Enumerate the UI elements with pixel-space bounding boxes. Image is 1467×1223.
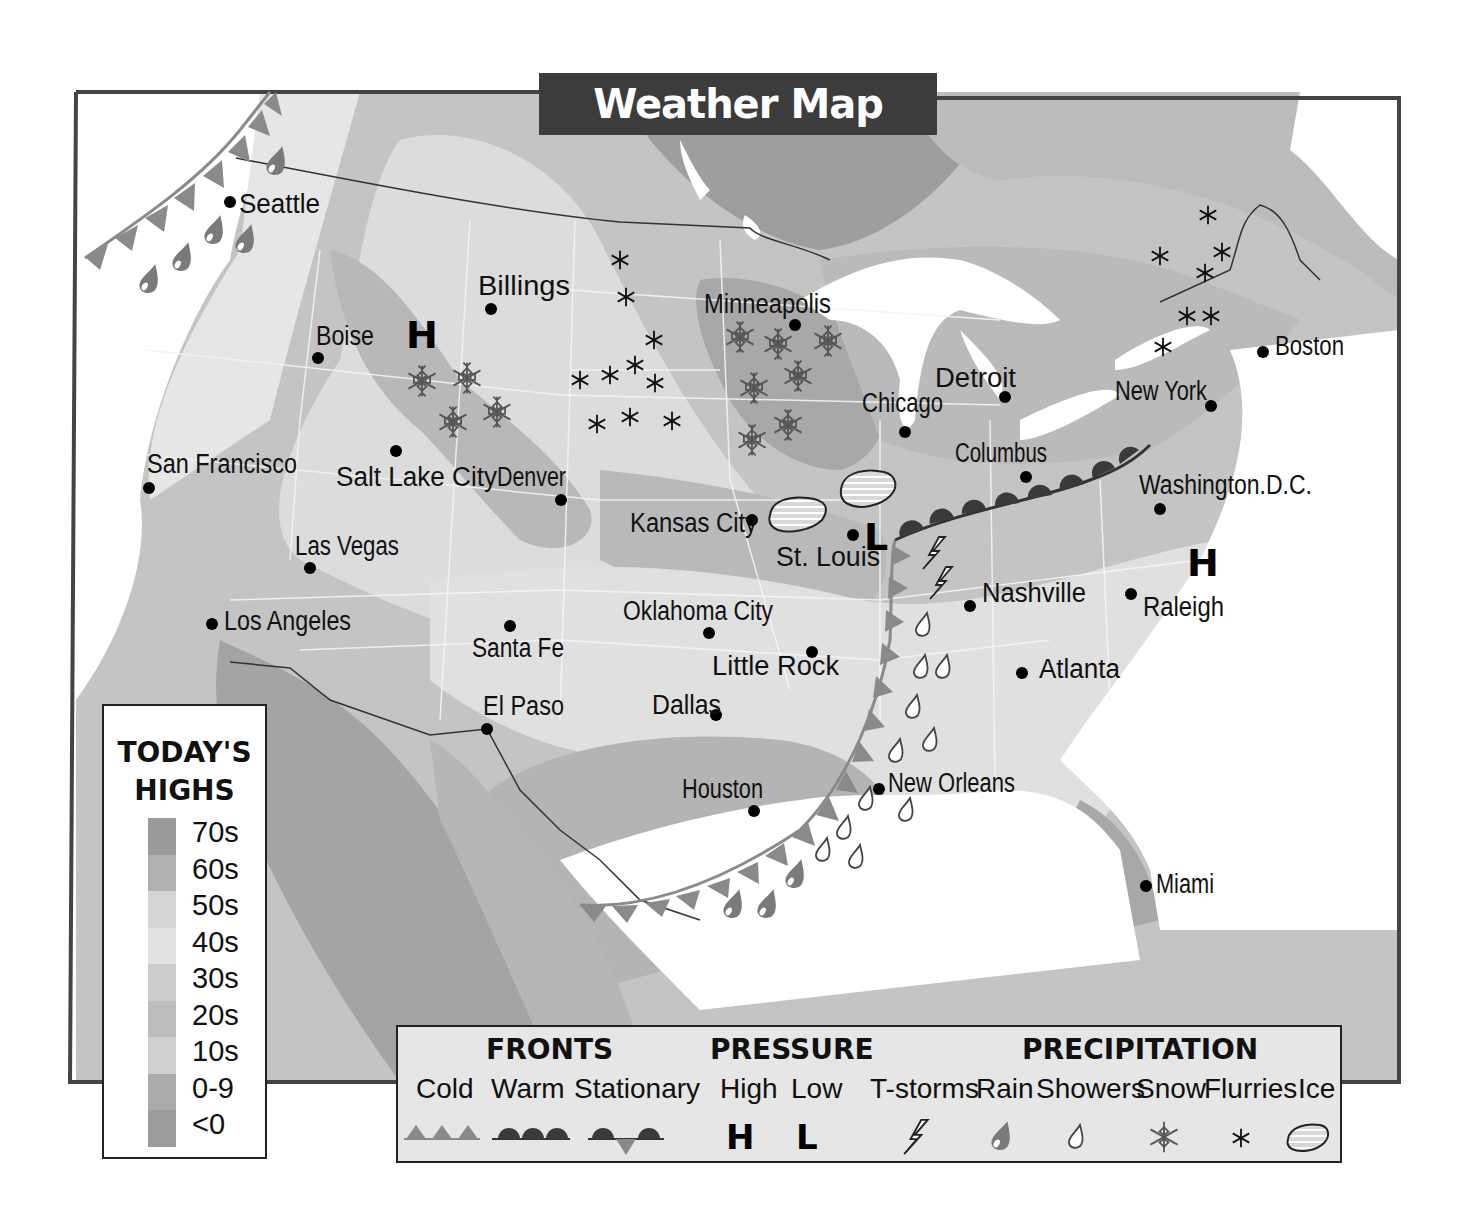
city-dot-icon <box>206 618 218 630</box>
todays-highs-title: TODAY'S HIGHS <box>104 734 265 810</box>
low-pressure-icon: L <box>796 1117 818 1157</box>
city-label: Las Vegas <box>295 531 399 561</box>
city-dot-icon <box>481 723 493 735</box>
city-dot-icon <box>1257 346 1269 358</box>
todays-highs-title-line2: HIGHS <box>104 772 265 810</box>
map-title: Weather Map <box>593 81 883 127</box>
city-label: Seattle <box>239 189 320 219</box>
city-dot-icon <box>312 352 324 364</box>
warm-front-icon <box>490 1119 572 1151</box>
symbols-legend: FRONTS PRESSURE PRECIPITATION Cold Warm … <box>396 1025 1342 1163</box>
city-label: Minneapolis <box>704 289 831 319</box>
city-dallas: Dallas <box>652 690 722 721</box>
todays-highs-title-line1: TODAY'S <box>104 734 265 772</box>
city-label: Atlanta <box>1039 654 1121 684</box>
city-dot-icon <box>504 620 516 632</box>
city-label: Oklahoma City <box>623 596 773 626</box>
legend-ice-label: Ice <box>1298 1073 1335 1105</box>
raindrop-outline-icon <box>1066 1123 1086 1151</box>
temperature-bands <box>76 92 1399 1082</box>
scale-swatch <box>148 1001 176 1038</box>
city-dot-icon <box>1020 471 1032 483</box>
legend-tstorms-label: T-storms <box>870 1073 979 1105</box>
legend-low-label: Low <box>791 1073 842 1105</box>
city-dot-icon <box>847 529 859 541</box>
map-title-banner: Weather Map <box>539 73 937 135</box>
city-label: Chicago <box>862 388 943 418</box>
city-label: Detroit <box>935 363 1016 393</box>
cold-front-icon <box>402 1119 482 1151</box>
city-label: Washington.D.C. <box>1139 470 1312 500</box>
city-dot-icon <box>899 426 911 438</box>
city-label: Miami <box>1156 869 1214 899</box>
scale-label: 10s <box>192 1033 239 1070</box>
scale-label: 60s <box>192 851 239 888</box>
city-los-angeles: Los Angeles <box>206 606 351 636</box>
city-label: Boston <box>1275 331 1344 361</box>
scale-swatch <box>148 928 176 965</box>
scale-label: 20s <box>192 997 239 1034</box>
scale-label: 40s <box>192 924 239 961</box>
stationary-front-icon <box>586 1119 666 1161</box>
city-nashville: Nashville <box>964 578 1086 612</box>
city-label: San Francisco <box>147 449 297 479</box>
scale-label: <0 <box>192 1106 239 1143</box>
city-new-orleans: New Orleans <box>873 768 1015 798</box>
city-label: Salt Lake City <box>336 462 497 492</box>
legend-pressure-heading: PRESSURE <box>710 1033 874 1066</box>
legend-showers-label: Showers <box>1036 1073 1145 1105</box>
scale-label: 30s <box>192 960 239 997</box>
city-dot-icon <box>789 319 801 331</box>
legend-stationary-label: Stationary <box>574 1073 700 1105</box>
city-dot-icon <box>143 482 155 494</box>
city-dot-icon <box>555 494 567 506</box>
city-dot-icon <box>390 445 402 457</box>
city-label: Los Angeles <box>224 606 351 636</box>
city-label: Columbus <box>955 438 1047 468</box>
legend-flurries-label: Flurries <box>1204 1073 1297 1105</box>
city-little-rock: Little Rock <box>712 646 839 681</box>
scale-swatch <box>148 964 176 1001</box>
high-pressure-symbol: H <box>1187 541 1219 585</box>
city-dot-icon <box>1140 880 1152 892</box>
lightning-bolt-icon <box>902 1117 932 1157</box>
city-seattle: Seattle <box>224 189 320 219</box>
legend-fronts-heading: FRONTS <box>486 1033 613 1066</box>
legend-rain-label: Rain <box>976 1073 1034 1105</box>
snowflake-icon <box>1146 1119 1182 1155</box>
city-label: Little Rock <box>712 651 839 681</box>
city-label: Santa Fe <box>472 633 564 663</box>
scale-swatch <box>148 1037 176 1074</box>
asterisk-flurry-icon <box>1230 1127 1252 1149</box>
city-dot-icon <box>748 805 760 817</box>
raindrop-filled-icon <box>988 1119 1014 1153</box>
high-pressure-icon: H <box>726 1117 754 1157</box>
city-label: New York <box>1115 376 1207 406</box>
city-label: Dallas <box>652 690 721 720</box>
city-kansas-city: Kansas City <box>630 508 758 538</box>
scale-swatch <box>148 855 176 892</box>
scale-swatch <box>148 1110 176 1147</box>
city-label: Kansas City <box>630 508 757 538</box>
temperature-color-scale <box>148 818 176 1147</box>
legend-warm-label: Warm <box>491 1073 565 1105</box>
todays-highs-legend: TODAY'S HIGHS 70s60s50s40s30s20s10s0-9<0 <box>102 704 267 1159</box>
weather-map-figure: H L H SeattleBillingsBoiseMinneapolisBos… <box>0 0 1467 1223</box>
temperature-scale-labels: 70s60s50s40s30s20s10s0-9<0 <box>192 814 239 1143</box>
city-dot-icon <box>485 303 497 315</box>
scale-label: 0-9 <box>192 1070 239 1107</box>
high-pressure-symbol: H <box>406 313 438 357</box>
legend-high-label: High <box>720 1073 778 1105</box>
scale-label: 50s <box>192 887 239 924</box>
city-dot-icon <box>964 600 976 612</box>
city-label: Boise <box>316 321 374 351</box>
ice-hatched-icon <box>1284 1121 1332 1155</box>
city-dot-icon <box>1154 503 1166 515</box>
legend-snow-label: Snow <box>1136 1073 1206 1105</box>
city-dot-icon <box>703 627 715 639</box>
city-dot-icon <box>304 562 316 574</box>
city-label: Denver <box>497 462 566 492</box>
scale-label: 70s <box>192 814 239 851</box>
city-dot-icon <box>1125 588 1137 600</box>
city-label: New Orleans <box>888 768 1015 798</box>
